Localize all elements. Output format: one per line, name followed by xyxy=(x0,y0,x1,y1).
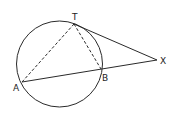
geometry-diagram: T A B X xyxy=(0,0,177,116)
label-x: X xyxy=(160,56,166,66)
circle xyxy=(17,21,103,107)
tangent-line-tx xyxy=(74,24,157,60)
secant-line-ax xyxy=(22,60,157,82)
label-a: A xyxy=(13,83,20,93)
label-b: B xyxy=(102,73,108,83)
label-t: T xyxy=(71,12,78,22)
